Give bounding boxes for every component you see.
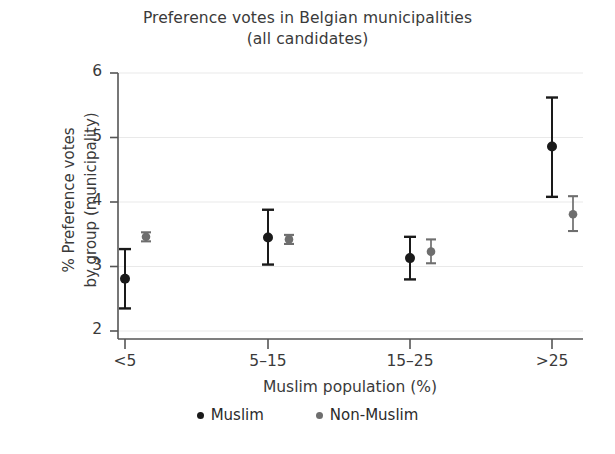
legend-label-non-muslim: Non-Muslim (330, 406, 419, 424)
data-point-muslim (262, 210, 274, 265)
legend-label-muslim: Muslim (211, 406, 264, 424)
data-point-non-muslim (284, 235, 294, 244)
chart-title-line-2: (all candidates) (0, 29, 615, 50)
legend-item-muslim: Muslim (197, 406, 264, 424)
x-axis-tick-label: 5–15 (249, 352, 286, 370)
y-axis-tick-label: 6 (76, 62, 102, 80)
data-point-muslim (546, 98, 558, 197)
x-axis-tick-label: <5 (114, 352, 137, 370)
chart-legend: Muslim Non-Muslim (0, 406, 615, 424)
legend-item-non-muslim: Non-Muslim (316, 406, 419, 424)
x-axis-tick-label: >25 (536, 352, 569, 370)
y-axis-tick-label: 4 (76, 191, 102, 209)
y-axis-tick-label: 3 (76, 256, 102, 274)
chart-title: Preference votes in Belgian municipaliti… (0, 8, 615, 50)
legend-marker-non-muslim (316, 412, 323, 419)
y-axis-tick-label: 2 (76, 320, 102, 338)
data-point-non-muslim (568, 196, 578, 231)
data-point-non-muslim (141, 232, 151, 241)
data-point-non-muslim (426, 239, 436, 263)
legend-marker-muslim (197, 412, 204, 419)
chart-figure: Preference votes in Belgian municipaliti… (0, 0, 615, 454)
data-point-muslim (404, 237, 416, 280)
x-axis-tick-label: 15–25 (386, 352, 433, 370)
y-axis-tick-label: 5 (76, 127, 102, 145)
data-point-muslim (119, 249, 131, 308)
x-axis-label: Muslim population (%) (110, 378, 590, 396)
chart-title-line-1: Preference votes in Belgian municipaliti… (0, 8, 615, 29)
